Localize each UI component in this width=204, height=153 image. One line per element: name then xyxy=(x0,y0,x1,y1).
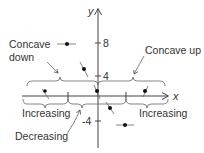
point-inflection xyxy=(95,89,99,93)
y-tick-label-neg4: -4 xyxy=(82,115,91,127)
point-increasing-left xyxy=(43,89,47,93)
y-tick-label-8: 8 xyxy=(103,37,109,49)
point-decreasing-lower xyxy=(108,106,112,110)
pointer-concave-up xyxy=(134,56,144,74)
label-decreasing: Decreasing xyxy=(15,130,68,142)
point-increasing-right xyxy=(143,89,147,93)
decreasing-brace xyxy=(68,99,126,108)
label-concave-down-line2: down xyxy=(9,51,34,63)
point-max xyxy=(65,42,69,46)
pointer-concave-down xyxy=(47,62,58,73)
y-axis-label: y xyxy=(87,5,95,17)
label-concave-up: Concave up xyxy=(145,44,201,56)
label-concave-down-line1: Concave xyxy=(9,38,51,50)
concavity-brace xyxy=(27,77,165,86)
diagram-canvas: y x 8 4 -4 Concave down Concave up Incre… xyxy=(0,0,204,153)
point-decreasing-upper xyxy=(82,67,86,71)
y-tick-label-4: 4 xyxy=(103,70,109,82)
x-axis-label: x xyxy=(172,90,179,102)
point-min xyxy=(123,123,127,127)
label-increasing-right: Increasing xyxy=(139,107,188,119)
label-increasing-left: Increasing xyxy=(22,107,71,119)
